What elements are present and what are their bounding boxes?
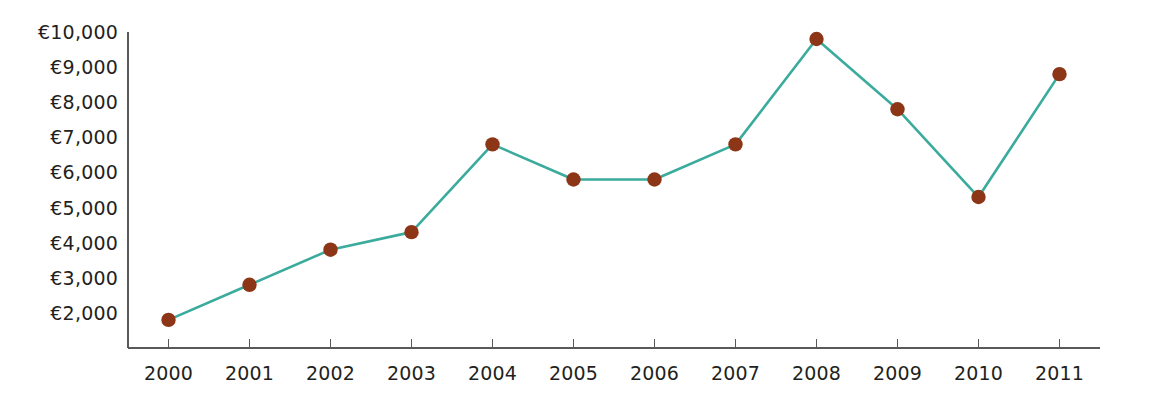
- series-group: [161, 32, 1066, 327]
- x-axis-tick-marks: [169, 339, 1060, 348]
- y-axis-tick-label: €9,000: [50, 56, 118, 78]
- y-axis-tick-label: €4,000: [50, 232, 118, 254]
- x-axis-tick-label: 2001: [225, 362, 274, 384]
- y-axis-tick-label: €10,000: [38, 21, 118, 43]
- series-line-path: [169, 39, 1060, 320]
- x-axis-tick-label: 2006: [630, 362, 679, 384]
- data-point-marker[interactable]: [809, 32, 823, 46]
- data-point-marker[interactable]: [323, 242, 337, 256]
- data-point-marker[interactable]: [971, 190, 985, 204]
- x-axis-tick-label: 2007: [711, 362, 760, 384]
- x-axis-tick-label: 2008: [792, 362, 841, 384]
- y-axis-tick-label: €2,000: [50, 302, 118, 324]
- y-axis-tick-label: €7,000: [50, 126, 118, 148]
- y-axis-tick-label: €6,000: [50, 161, 118, 183]
- data-point-marker[interactable]: [1052, 67, 1066, 81]
- data-point-marker[interactable]: [647, 172, 661, 186]
- y-axis-tick-label: €8,000: [50, 91, 118, 113]
- data-point-marker[interactable]: [242, 278, 256, 292]
- x-axis-tick-label: 2002: [306, 362, 355, 384]
- data-point-marker[interactable]: [485, 137, 499, 151]
- data-point-marker[interactable]: [404, 225, 418, 239]
- x-axis-tick-label: 2005: [549, 362, 598, 384]
- data-point-marker[interactable]: [728, 137, 742, 151]
- x-axis-tick-label: 2000: [144, 362, 193, 384]
- data-point-marker[interactable]: [161, 313, 175, 327]
- x-axis-tick-label: 2010: [954, 362, 1003, 384]
- x-axis-tick-labels: 2000200120022003200420052006200720082009…: [144, 362, 1084, 384]
- y-axis-tick-labels: €2,000€3,000€4,000€5,000€6,000€7,000€8,0…: [38, 21, 118, 324]
- x-axis-group: 2000200120022003200420052006200720082009…: [128, 339, 1100, 384]
- data-point-marker[interactable]: [566, 172, 580, 186]
- x-axis-tick-label: 2003: [387, 362, 436, 384]
- x-axis-tick-label: 2004: [468, 362, 517, 384]
- x-axis-tick-label: 2009: [873, 362, 922, 384]
- y-axis-tick-label: €3,000: [50, 267, 118, 289]
- chart-canvas: €2,000€3,000€4,000€5,000€6,000€7,000€8,0…: [0, 0, 1152, 402]
- x-axis-tick-label: 2011: [1035, 362, 1084, 384]
- data-point-marker[interactable]: [890, 102, 904, 116]
- line-chart-figure: €2,000€3,000€4,000€5,000€6,000€7,000€8,0…: [0, 0, 1152, 402]
- y-axis-tick-label: €5,000: [50, 197, 118, 219]
- y-axis-group: €2,000€3,000€4,000€5,000€6,000€7,000€8,0…: [38, 21, 128, 348]
